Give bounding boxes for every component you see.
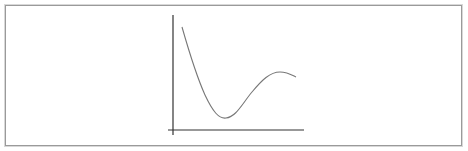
data-curve	[182, 27, 296, 118]
line-chart	[0, 0, 468, 151]
